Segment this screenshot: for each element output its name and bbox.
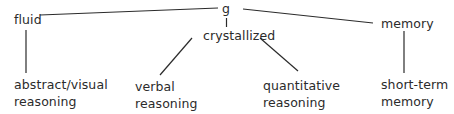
node-label: memory xyxy=(381,15,434,32)
node-g: g xyxy=(222,0,230,17)
edge-crystallized-verbal xyxy=(160,38,192,75)
node-label-line-2: reasoning xyxy=(135,95,198,112)
node-label-line-2: memory xyxy=(381,93,448,110)
edge-g-fluid xyxy=(40,8,218,15)
node-verbal-reasoning: verbal reasoning xyxy=(135,78,198,112)
node-label: fluid xyxy=(14,11,42,28)
node-label: g xyxy=(222,0,230,17)
node-label-line-1: short-term xyxy=(381,76,448,93)
node-label-line-1: abstract/visual xyxy=(14,76,108,93)
node-abstract-visual-reasoning: abstract/visual reasoning xyxy=(14,76,108,110)
node-label-line-1: quantitative xyxy=(263,77,340,94)
node-label-line-2: reasoning xyxy=(14,93,108,110)
edge-g-memory xyxy=(243,9,373,23)
node-label: crystallized xyxy=(203,27,275,44)
node-short-term-memory: short-term memory xyxy=(381,76,448,110)
node-crystallized: crystallized xyxy=(203,27,275,44)
node-label-line-2: reasoning xyxy=(263,94,340,111)
node-quantitative-reasoning: quantitative reasoning xyxy=(263,77,340,111)
node-label-line-1: verbal xyxy=(135,78,198,95)
node-fluid: fluid xyxy=(14,11,42,28)
node-memory: memory xyxy=(381,15,434,32)
